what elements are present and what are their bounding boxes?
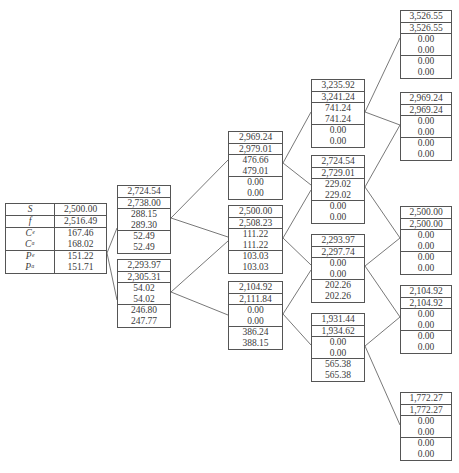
- node-spot: 3,526.55: [401, 11, 451, 23]
- european-put-value: 151.22: [55, 251, 106, 262]
- node-futures: 2,104.92: [401, 298, 451, 309]
- node-put-am: 0.00: [401, 149, 451, 160]
- node-put-am: 0.00: [312, 212, 364, 223]
- node-put-eu: 246.80: [118, 305, 170, 316]
- node-futures: 2,111.84: [229, 294, 282, 305]
- tree-node-l3-uud: 2,724.542,729.01 229.02229.02 0.000.00: [311, 155, 365, 224]
- node-futures: 3,241.24: [312, 92, 364, 103]
- node-call-eu: 0.00: [401, 416, 451, 427]
- node-spot: 2,500.00: [229, 206, 282, 218]
- node-spot: 2,104.92: [229, 282, 282, 294]
- american-put-value: 151.71: [55, 262, 106, 273]
- tree-node-l2-dd: 2,104.922,111.84 0.000.00 386.24388.15: [228, 281, 283, 350]
- node-put-eu: 202.26: [312, 280, 364, 291]
- node-spot: 3,235.92: [312, 80, 364, 92]
- node-put-am: 0.00: [401, 67, 451, 78]
- node-put-am: 247.77: [118, 316, 170, 327]
- node-spot: 2,293.97: [118, 260, 170, 272]
- european-call-value: 167.46: [55, 228, 106, 239]
- tree-node-l4-uuuu: 3,526.553,526.55 0.000.00 0.000.00: [400, 10, 452, 79]
- node-put-eu: 386.24: [229, 327, 282, 338]
- node-call-am: 0.00: [401, 127, 451, 138]
- node-futures: 1,934.62: [312, 326, 364, 337]
- european-call-label: Cᵉ: [6, 228, 55, 239]
- node-spot: 1,772.27: [401, 393, 451, 405]
- tree-node-l1-up: 2,724.542,738.00 288.15289.30 52.4952.49: [117, 185, 171, 254]
- node-put-am: 52.49: [118, 242, 170, 253]
- node-call-eu: 0.00: [401, 309, 451, 320]
- tree-node-l4-dddd: 1,772.271,772.27 0.000.00 0.000.00: [400, 392, 452, 461]
- american-put-label: Pᵃ: [6, 262, 55, 273]
- node-call-am: 0.00: [229, 316, 282, 327]
- node-call-eu: 0.00: [401, 116, 451, 127]
- node-spot: 2,104.92: [401, 286, 451, 298]
- node-call-am: 289.30: [118, 220, 170, 231]
- node-put-eu: 103.03: [229, 251, 282, 262]
- node-put-am: 0.00: [401, 263, 451, 274]
- node-put-eu: 0.00: [401, 331, 451, 342]
- tree-node-l4-uuud: 2,969.242,969.24 0.000.00 0.000.00: [400, 92, 452, 161]
- node-put-eu: 52.49: [118, 231, 170, 242]
- node-spot: 2,500.00: [401, 207, 451, 219]
- node-call-am: 479.01: [229, 166, 282, 177]
- american-call-value: 168.02: [55, 239, 106, 250]
- node-call-eu: 0.00: [229, 305, 282, 316]
- european-put-label: Pᵉ: [6, 251, 55, 262]
- node-spot: 2,724.54: [312, 156, 364, 168]
- root-node: S2,500.00 f2,516.49 Cᵉ167.46 Cᵃ168.02 Pᵉ…: [5, 203, 107, 274]
- tree-node-l3-uuu: 3,235.923,241.24 741.24741.24 0.000.00: [311, 79, 365, 148]
- node-call-am: 0.00: [312, 348, 364, 359]
- tree-node-l4-uudd: 2,500.002,500.00 0.000.00 0.000.00: [400, 206, 452, 275]
- futures-price-value: 2,516.49: [55, 216, 106, 227]
- node-futures: 1,772.27: [401, 405, 451, 416]
- node-spot: 2,293.97: [312, 235, 364, 247]
- node-call-am: 0.00: [401, 45, 451, 56]
- node-put-eu: 565.38: [312, 359, 364, 370]
- spot-price-value: 2,500.00: [55, 204, 106, 215]
- node-futures: 2,729.01: [312, 168, 364, 179]
- tree-node-l3-ddd: 1,931.441,934.62 0.000.00 565.38565.38: [311, 313, 365, 382]
- node-put-am: 202.26: [312, 291, 364, 302]
- node-put-eu: 0.00: [229, 177, 282, 188]
- node-futures: 3,526.55: [401, 23, 451, 34]
- node-call-eu: 476.66: [229, 155, 282, 166]
- node-put-eu: 0.00: [401, 138, 451, 149]
- node-spot: 2,969.24: [229, 132, 282, 144]
- node-futures: 2,738.00: [118, 198, 170, 209]
- tree-node-l2-uu: 2,969.242,979.01 476.66479.01 0.000.00: [228, 131, 283, 200]
- node-call-eu: 0.00: [401, 230, 451, 241]
- node-call-eu: 54.02: [118, 283, 170, 294]
- node-call-am: 741.24: [312, 114, 364, 125]
- node-call-eu: 229.02: [312, 179, 364, 190]
- node-futures: 2,297.74: [312, 247, 364, 258]
- node-call-am: 0.00: [401, 427, 451, 438]
- node-put-am: 0.00: [312, 136, 364, 147]
- node-futures: 2,969.24: [401, 105, 451, 116]
- node-spot: 1,931.44: [312, 314, 364, 326]
- american-call-label: Cᵃ: [6, 239, 55, 250]
- node-put-eu: 0.00: [401, 438, 451, 449]
- node-call-eu: 0.00: [312, 258, 364, 269]
- node-futures: 2,500.00: [401, 219, 451, 230]
- node-put-eu: 0.00: [312, 125, 364, 136]
- tree-node-l4-uddd: 2,104.922,104.92 0.000.00 0.000.00: [400, 285, 452, 354]
- node-call-am: 229.02: [312, 190, 364, 201]
- node-put-am: 0.00: [401, 342, 451, 353]
- node-call-am: 0.00: [312, 269, 364, 280]
- node-futures: 2,508.23: [229, 218, 282, 229]
- node-put-eu: 0.00: [401, 252, 451, 263]
- node-futures: 2,305.31: [118, 272, 170, 283]
- node-call-eu: 0.00: [312, 337, 364, 348]
- node-call-eu: 111.22: [229, 229, 282, 240]
- node-call-am: 0.00: [401, 241, 451, 252]
- tree-node-l3-udd: 2,293.972,297.74 0.000.00 202.26202.26: [311, 234, 365, 303]
- node-futures: 2,979.01: [229, 144, 282, 155]
- tree-node-l2-ud: 2,500.002,508.23 111.22111.22 103.03103.…: [228, 205, 283, 274]
- node-put-am: 103.03: [229, 262, 282, 273]
- futures-price-label: f: [6, 216, 55, 227]
- node-put-am: 565.38: [312, 370, 364, 381]
- node-call-am: 0.00: [401, 320, 451, 331]
- node-put-eu: 0.00: [401, 56, 451, 67]
- node-call-eu: 741.24: [312, 103, 364, 114]
- node-spot: 2,969.24: [401, 93, 451, 105]
